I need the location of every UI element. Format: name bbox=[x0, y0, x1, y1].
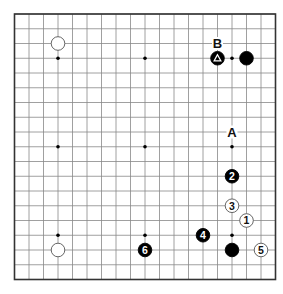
move-number: 1 bbox=[244, 214, 250, 226]
star-point bbox=[56, 233, 60, 237]
black-stone bbox=[240, 51, 254, 65]
white-stone bbox=[51, 243, 65, 257]
star-point bbox=[143, 233, 147, 237]
star-point bbox=[230, 56, 234, 60]
move-number: 2 bbox=[229, 170, 235, 182]
move-number: 3 bbox=[229, 200, 235, 212]
go-board: BA123456 bbox=[0, 0, 283, 294]
move-number: 6 bbox=[142, 244, 148, 256]
star-point bbox=[230, 233, 234, 237]
white-stone bbox=[51, 37, 65, 51]
move-number: 5 bbox=[258, 244, 264, 256]
black-stone bbox=[225, 243, 239, 257]
star-point bbox=[230, 145, 234, 149]
letter-label-b: B bbox=[213, 36, 222, 51]
letter-label-a: A bbox=[227, 125, 237, 140]
star-point bbox=[56, 145, 60, 149]
star-point bbox=[143, 145, 147, 149]
star-point bbox=[56, 56, 60, 60]
move-number: 4 bbox=[200, 229, 206, 241]
star-point bbox=[143, 56, 147, 60]
